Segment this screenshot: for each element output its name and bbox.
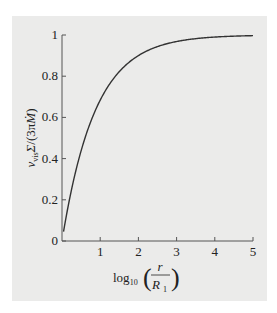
svg-text:(: ( — [143, 263, 152, 292]
x-tick-label: 1 — [97, 244, 104, 259]
svg-text:r: r — [157, 259, 163, 274]
x-tick-label: 2 — [135, 244, 142, 259]
svg-text:): ) — [171, 263, 180, 292]
x-tick-label: 5 — [250, 244, 257, 259]
y-tick-label: 0 — [52, 233, 59, 248]
y-tick-label: 0.8 — [42, 68, 58, 83]
svg-text:R: R — [151, 277, 160, 292]
y-tick-label: 0.4 — [42, 151, 59, 166]
svg-text:1: 1 — [163, 285, 167, 294]
x-axis-ticks: 12345 — [97, 237, 256, 259]
svg-text:log10: log10 — [113, 270, 138, 287]
y-tick-label: 1 — [52, 27, 59, 42]
x-axis-title: log10 ( r R 1 ) — [113, 259, 180, 294]
data-curve — [64, 36, 253, 232]
axes — [62, 35, 253, 241]
x-tick-label: 4 — [212, 244, 219, 259]
x-tick-label: 3 — [173, 244, 180, 259]
y-tick-label: 0.2 — [42, 192, 58, 207]
y-axis-title: νvisΣ/(3πṀ) — [23, 108, 40, 167]
y-tick-label: 0.6 — [42, 109, 59, 124]
line-chart: 00.20.40.60.81 12345 νvisΣ/(3πṀ) log10 (… — [0, 0, 277, 313]
